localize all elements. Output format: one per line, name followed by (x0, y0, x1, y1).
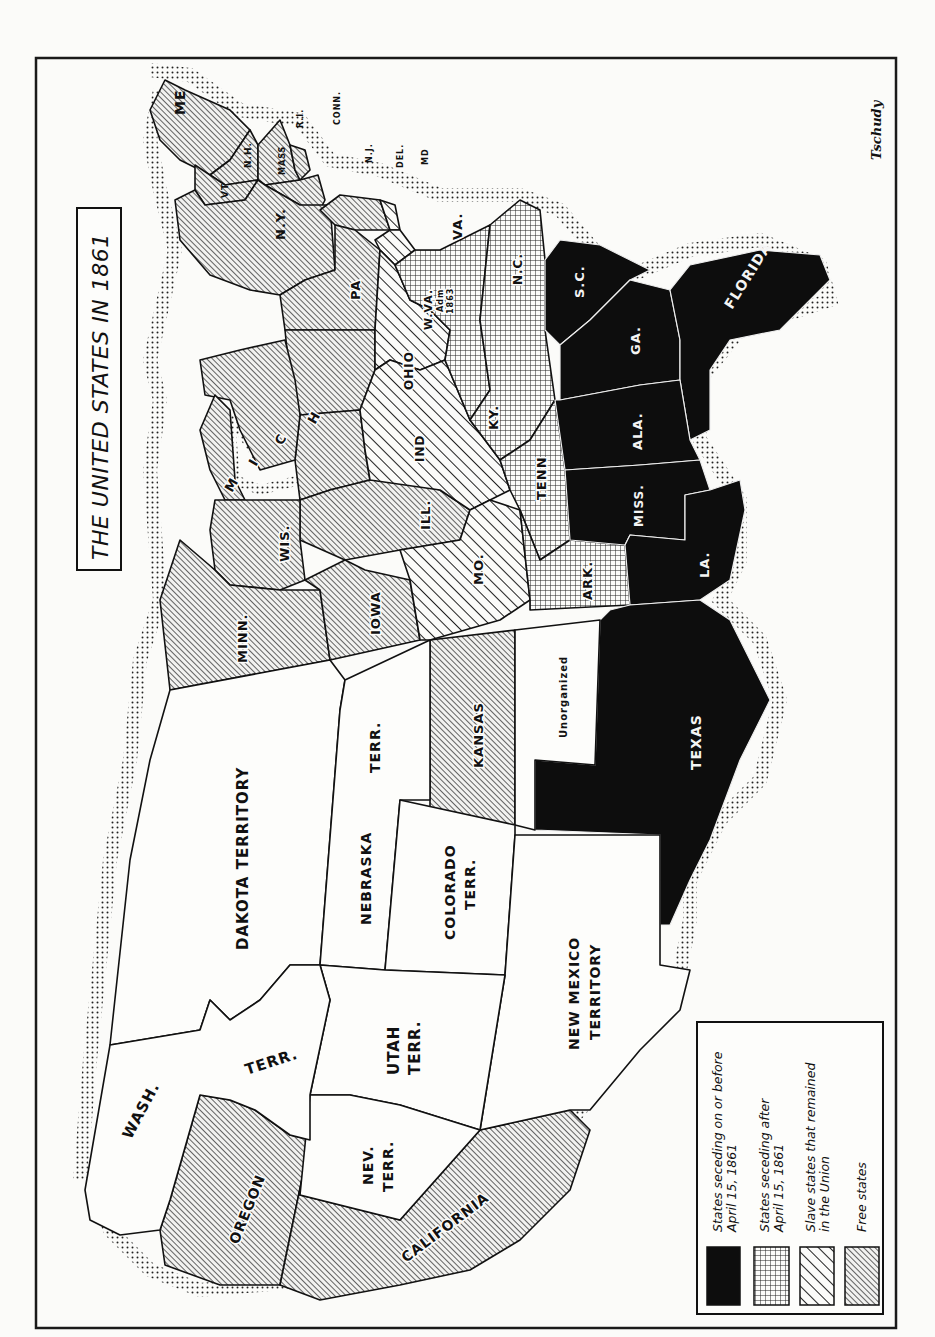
region-new-mexico-territory[interactable] (480, 835, 690, 1130)
label-texas: TEXAS (688, 714, 704, 770)
legend-swatch-slave-union (800, 1247, 834, 1305)
legend-swatch-free (845, 1247, 879, 1305)
legend: States seceding on or before April 15, 1… (697, 1022, 883, 1314)
legend-label-seceded-early-2: April 15, 1861 (724, 1144, 739, 1233)
title-box: THE UNITED STATES IN 1861 (77, 208, 121, 570)
label-ala: ALA. (630, 412, 645, 450)
map-title: THE UNITED STATES IN 1861 (88, 233, 113, 560)
label-miss: MISS. (632, 484, 646, 527)
label-wva-adm: Adm (436, 289, 445, 312)
label-colorado-terr: TERR. (462, 859, 478, 910)
legend-swatch-seceded-early (707, 1247, 740, 1305)
label-nev-terr: TERR. (380, 1141, 396, 1192)
label-nebraska: NEBRASKA (358, 832, 374, 925)
label-ill: ILL. (418, 500, 433, 530)
label-new-mexico-territory: TERRITORY (587, 944, 603, 1041)
label-mass: MASS (278, 146, 287, 175)
label-wis: WIS. (277, 525, 292, 562)
label-vt: VT (220, 183, 230, 198)
label-sc: S.C. (572, 265, 587, 298)
legend-label-seceded-late-2: April 15, 1861 (771, 1144, 786, 1233)
label-iowa: IOWA (368, 591, 383, 635)
label-nc: N.C. (511, 253, 525, 285)
label-wva-year: 1863 (446, 288, 455, 314)
label-la: LA. (697, 551, 712, 578)
label-md: MD (421, 148, 430, 165)
legend-label-seceded-early-1: States seceding on or before (710, 1051, 725, 1232)
label-del: DEL. (396, 144, 405, 168)
label-va: VA. (450, 213, 465, 240)
label-ny: N.Y. (273, 208, 288, 240)
label-colorado: COLORADO (442, 844, 458, 940)
label-ga: GA. (628, 326, 643, 355)
label-ri: R.I. (296, 109, 305, 128)
label-wva: W.VA. (422, 289, 435, 330)
label-nh: N.H. (243, 142, 253, 168)
label-utah: UTAH (385, 1026, 403, 1075)
label-nebraska-terr: TERR. (367, 722, 383, 773)
legend-label-slave-union-1: Slave states that remained (803, 1063, 818, 1232)
legend-label-slave-union-2: in the Union (817, 1156, 832, 1232)
label-minn: MINN. (235, 614, 250, 663)
label-tenn: TENN (534, 456, 549, 500)
label-dakota: DAKOTA TERRITORY (234, 766, 252, 950)
label-ark: ARK. (580, 561, 595, 600)
label-nj: N.J. (365, 143, 374, 163)
label-nev: NEV. (360, 1145, 376, 1185)
label-me: ME (172, 90, 188, 116)
label-mo: MO. (471, 553, 486, 585)
artist-signature: Tschudy (869, 99, 884, 160)
label-pa: PA (348, 280, 363, 300)
label-ky: KY. (486, 405, 501, 430)
label-unorganized: Unorganized (558, 656, 569, 738)
map-canvas: THE UNITED STATES IN 1861 Tschudy ME N.H… (0, 0, 935, 1337)
label-conn: CONN. (333, 91, 342, 125)
label-ohio: OHIO (402, 351, 416, 390)
label-utah-terr: TERR. (406, 1020, 424, 1075)
label-ind: IND (413, 435, 427, 462)
legend-label-free-1: Free states (854, 1162, 869, 1232)
label-new-mexico: NEW MEXICO (566, 937, 582, 1050)
legend-swatch-seceded-late (754, 1247, 789, 1305)
label-kansas: KANSAS (471, 702, 486, 768)
legend-label-seceded-late-1: States seceding after (757, 1098, 772, 1232)
